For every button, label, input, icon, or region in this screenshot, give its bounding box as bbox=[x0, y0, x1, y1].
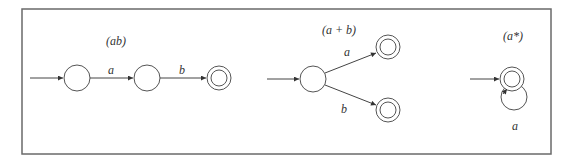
state-middle bbox=[134, 65, 160, 91]
accept-inner-ring bbox=[211, 70, 227, 86]
state-start bbox=[64, 65, 90, 91]
diagram-title: (a + b) bbox=[322, 23, 356, 37]
transition-label: a bbox=[108, 63, 114, 77]
state-start bbox=[300, 66, 326, 92]
accept-inner-ring bbox=[380, 102, 396, 118]
accept-inner-ring bbox=[380, 39, 396, 55]
figure-frame bbox=[22, 9, 551, 154]
transition-label: b bbox=[341, 102, 347, 116]
diagram-title: (a*) bbox=[503, 29, 523, 43]
transition-label: a bbox=[512, 119, 518, 133]
transition-label: b bbox=[179, 63, 185, 77]
diagram-title: (ab) bbox=[106, 34, 126, 48]
accept-inner-ring bbox=[504, 71, 520, 87]
automata-figure: (ab) a b (a + b) a b (a*) a bbox=[0, 0, 569, 164]
transition-label: a bbox=[344, 45, 350, 59]
